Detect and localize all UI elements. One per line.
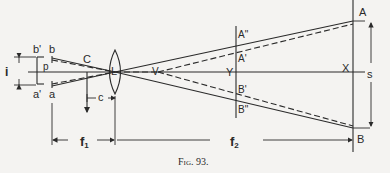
label-C: C <box>83 53 91 65</box>
label-p: p <box>43 61 49 72</box>
label-b: b <box>49 43 55 55</box>
label-c: c <box>98 91 104 103</box>
optics-diagram-fig-93: i b' b p a' a C L c V Y A" A' B' B" A B … <box>0 0 390 173</box>
label-A: A <box>359 6 367 18</box>
label-i: i <box>5 65 8 79</box>
label-B-double-prime: B" <box>238 104 249 115</box>
label-s: s <box>367 68 373 80</box>
label-B-prime: B' <box>238 84 247 95</box>
label-f1: f1 <box>80 134 89 150</box>
refracted-rays <box>115 21 353 128</box>
label-A-double-prime: A" <box>238 29 249 40</box>
label-Y: Y <box>226 66 234 78</box>
label-a: a <box>49 88 56 100</box>
label-A-prime: A' <box>238 53 247 64</box>
label-b-prime: b' <box>33 43 41 55</box>
label-X: X <box>342 62 350 74</box>
label-V: V <box>152 66 159 77</box>
label-L: L <box>111 65 117 77</box>
label-B: B <box>357 133 364 145</box>
label-a-prime: a' <box>33 88 41 100</box>
label-f2: f2 <box>230 134 239 150</box>
figure-caption: Fig. 93. <box>178 156 208 167</box>
